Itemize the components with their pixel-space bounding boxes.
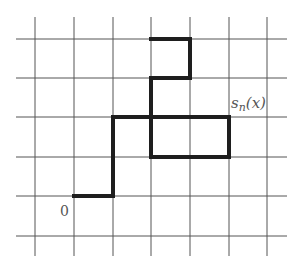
- endpoint-label-subscript: n: [239, 101, 246, 114]
- origin-label: 0: [60, 203, 69, 219]
- endpoint-label: sn(x): [231, 94, 266, 114]
- lattice-path-diagram: 0 sn(x): [0, 0, 300, 269]
- endpoint-label-arg: (x): [246, 94, 266, 112]
